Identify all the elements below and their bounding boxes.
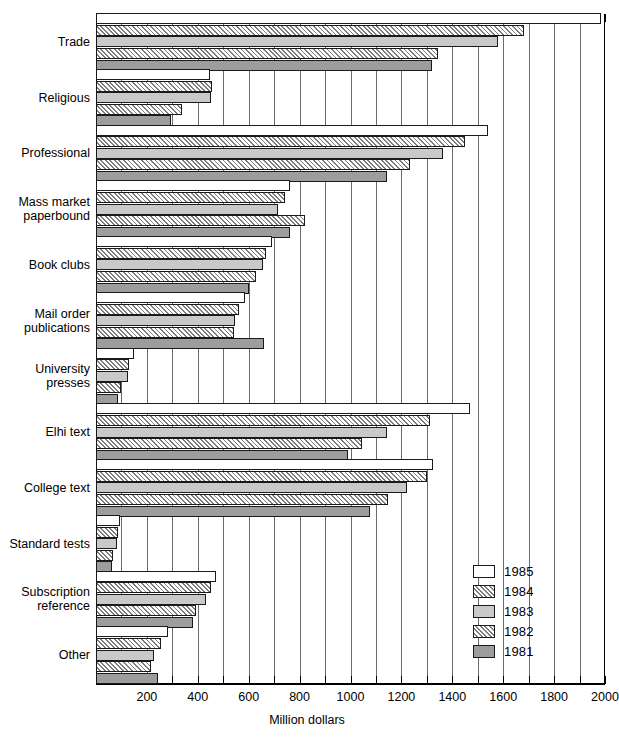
axis-tick	[223, 676, 224, 684]
x-tick-label: 1000	[337, 690, 365, 704]
x-axis-title: Million dollars	[0, 713, 614, 727]
bar	[96, 315, 235, 326]
category-label: Elhi text	[46, 425, 90, 439]
axis-tick	[172, 676, 173, 684]
bar	[96, 348, 134, 359]
bar	[96, 204, 278, 215]
axis-tick	[452, 676, 453, 684]
bar	[96, 459, 433, 470]
axis-tick	[274, 676, 275, 684]
axis-tick	[478, 676, 479, 684]
axis-tick	[580, 676, 581, 684]
x-tick-label: 1400	[438, 690, 466, 704]
legend-swatch-icon	[473, 565, 495, 578]
category-label: Book clubs	[29, 258, 90, 272]
legend-item: 1985	[473, 561, 534, 581]
legend-swatch-icon	[473, 625, 495, 638]
bar	[96, 248, 266, 259]
category-label: Subscription reference	[21, 585, 90, 613]
category-label: Mass market paperbound	[18, 195, 90, 223]
legend-label: 1982	[504, 624, 534, 639]
bar	[96, 582, 211, 593]
legend-item: 1984	[473, 581, 534, 601]
gridline	[401, 14, 402, 683]
bar	[96, 159, 410, 170]
bar	[96, 626, 168, 637]
legend-swatch-icon	[473, 585, 495, 598]
bar	[96, 605, 196, 616]
bar	[96, 136, 465, 147]
bar	[96, 25, 524, 36]
bar	[96, 550, 113, 561]
legend-item: 1982	[473, 621, 534, 641]
legend-label: 1981	[504, 644, 534, 659]
bar	[96, 673, 158, 684]
gridline	[274, 14, 275, 683]
category-label: University presses	[35, 362, 90, 390]
category-label: College text	[24, 481, 90, 495]
axis-tick	[554, 676, 555, 684]
bar	[96, 427, 387, 438]
bar	[96, 638, 161, 649]
axis-tick	[529, 676, 530, 684]
category-label: Religious	[39, 91, 90, 105]
bar	[96, 304, 239, 315]
bar	[96, 482, 407, 493]
bar	[96, 538, 117, 549]
bar	[96, 359, 129, 370]
x-tick-label: 2000	[591, 690, 619, 704]
axis-tick	[401, 676, 402, 684]
legend-item: 1983	[473, 601, 534, 621]
bar	[96, 69, 210, 80]
category-label: Trade	[58, 35, 90, 49]
bar	[96, 148, 443, 159]
category-label: Other	[59, 648, 90, 662]
bar	[96, 125, 488, 136]
gridline	[554, 14, 555, 683]
category-label: Standard tests	[9, 537, 90, 551]
bar	[96, 506, 370, 517]
bar	[96, 13, 601, 24]
x-tick-label: 600	[238, 690, 259, 704]
bar	[96, 382, 121, 393]
axis-tick	[198, 676, 199, 684]
x-tick-label: 400	[187, 690, 208, 704]
gridline	[452, 14, 453, 683]
bar	[96, 180, 290, 191]
bar	[96, 661, 151, 672]
bar	[96, 403, 470, 414]
x-tick-label: 1600	[489, 690, 517, 704]
axis-tick	[376, 676, 377, 684]
axis-tick	[503, 676, 504, 684]
axis-tick	[300, 676, 301, 684]
gridline	[300, 14, 301, 683]
legend-swatch-icon	[473, 645, 495, 658]
bar	[96, 438, 362, 449]
bar	[96, 236, 272, 247]
axis-tick	[249, 676, 250, 684]
axis-tick	[351, 676, 352, 684]
gridline	[325, 14, 326, 683]
bar	[96, 594, 206, 605]
bar	[96, 271, 256, 282]
category-label: Mail order publications	[24, 307, 90, 335]
category-label: Professional	[21, 146, 90, 160]
axis-tick	[427, 676, 428, 684]
x-tick-label: 200	[136, 690, 157, 704]
axis-tick	[605, 676, 606, 684]
bar	[96, 48, 438, 59]
bar	[96, 494, 388, 505]
x-tick-label: 1200	[387, 690, 415, 704]
gridline	[427, 14, 428, 683]
axis-tick	[325, 676, 326, 684]
bar	[96, 515, 120, 526]
bar	[96, 415, 430, 426]
legend-swatch-icon	[473, 605, 495, 618]
bar	[96, 650, 154, 661]
legend-item: 1981	[473, 641, 534, 661]
bar	[96, 292, 245, 303]
legend-label: 1983	[504, 604, 534, 619]
bar	[96, 215, 305, 226]
bar	[96, 371, 128, 382]
